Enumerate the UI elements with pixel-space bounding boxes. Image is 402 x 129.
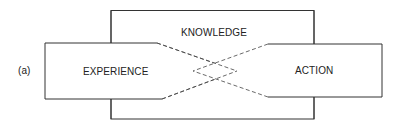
experience-label: EXPERIENCE (83, 66, 148, 77)
diagram-canvas (0, 0, 402, 129)
action-shape-fill (193, 44, 382, 97)
action-label: ACTION (295, 65, 333, 76)
knowledge-label: KNOWLEDGE (181, 27, 247, 38)
panel-label: (a) (18, 65, 31, 76)
